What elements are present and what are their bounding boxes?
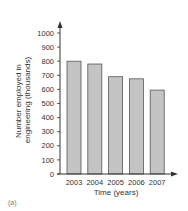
bar-2007 bbox=[150, 90, 164, 174]
x-axis-title: Time (years) bbox=[94, 188, 139, 197]
figure-caption: (a) bbox=[8, 199, 17, 206]
x-axis-arrow-icon bbox=[171, 172, 178, 177]
y-axis-arrow-icon bbox=[58, 21, 63, 28]
x-tick-label: 2004 bbox=[86, 178, 103, 187]
bars bbox=[67, 61, 164, 174]
y-tick-label: 600 bbox=[41, 85, 54, 94]
y-tick-label: 500 bbox=[41, 99, 54, 108]
bar-2004 bbox=[88, 64, 102, 174]
y-axis-title: Number employed in engineering (thousand… bbox=[14, 57, 32, 144]
x-tick-label: 2006 bbox=[128, 178, 145, 187]
y-tick-label: 200 bbox=[41, 141, 54, 150]
y-tick-label: 100 bbox=[41, 156, 54, 165]
y-tick-label: 900 bbox=[41, 43, 54, 52]
y-axis-ticks: 01002003004005006007008009001000 bbox=[37, 29, 60, 179]
y-tick-label: 800 bbox=[41, 57, 54, 66]
x-tick-label: 2005 bbox=[107, 178, 124, 187]
bar-2003 bbox=[67, 61, 81, 174]
x-tick-label: 2003 bbox=[66, 178, 83, 187]
x-tick-label: 2007 bbox=[149, 178, 166, 187]
y-tick-label: 1000 bbox=[37, 29, 54, 38]
y-tick-label: 300 bbox=[41, 127, 54, 136]
y-tick-label: 700 bbox=[41, 71, 54, 80]
x-axis-ticks: 20032004200520062007 bbox=[66, 178, 166, 187]
bar-2006 bbox=[129, 79, 143, 174]
bar-2005 bbox=[109, 77, 123, 174]
bar-chart: 01002003004005006007008009001000 2003200… bbox=[0, 0, 188, 211]
y-tick-label: 0 bbox=[50, 170, 54, 179]
y-tick-label: 400 bbox=[41, 113, 54, 122]
